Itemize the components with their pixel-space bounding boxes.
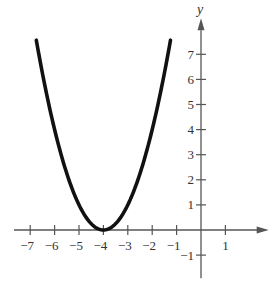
y-tick-label: −1 <box>180 248 194 263</box>
x-axis-arrow-icon <box>257 227 269 234</box>
parabola-curve <box>36 40 170 230</box>
y-axis-label: y <box>195 2 204 17</box>
y-tick-label: 3 <box>188 147 195 162</box>
y-tick-label: 7 <box>188 47 195 62</box>
x-tick-label: −4 <box>93 238 107 253</box>
x-tick-label: −7 <box>20 238 34 253</box>
y-axis-arrow-icon <box>198 18 205 30</box>
y-tick-label: 1 <box>188 197 195 212</box>
y-tick-label: 5 <box>188 97 195 112</box>
y-tick-label: 2 <box>188 172 195 187</box>
y-tick-label: 4 <box>188 122 195 137</box>
parabola-chart: −7−6−5−4−3−2−11−11234567 x y <box>0 0 274 285</box>
x-tick-label: −3 <box>118 238 132 253</box>
x-tick-label: 1 <box>222 238 229 253</box>
y-tick-label: 6 <box>188 72 195 87</box>
x-tick-label: −5 <box>69 238 83 253</box>
x-tick-label: −6 <box>45 238 59 253</box>
x-tick-label: −2 <box>142 238 156 253</box>
x-tick-label: −1 <box>167 238 181 253</box>
